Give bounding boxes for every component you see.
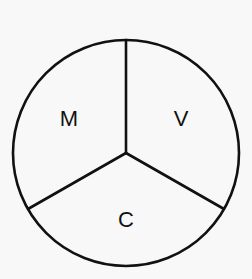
diagram-canvas: M V C: [0, 0, 252, 279]
sector-label-m: M: [60, 106, 78, 131]
divided-circle-diagram: M V C: [0, 0, 252, 279]
sector-label-v: V: [174, 106, 189, 131]
sector-label-c: C: [118, 207, 134, 232]
